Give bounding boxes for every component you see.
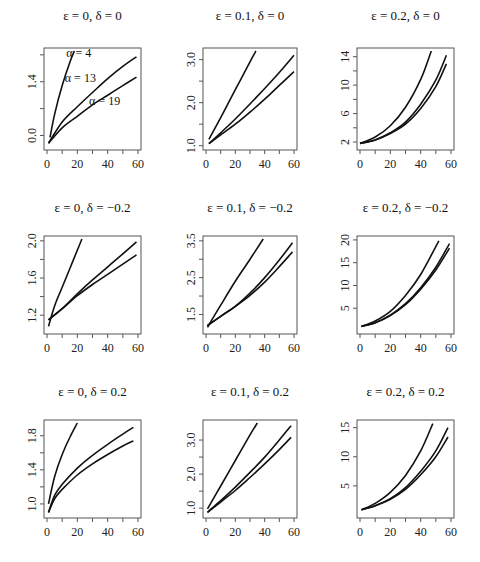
y-tick-label: 1.4 (25, 462, 39, 477)
x-tick-label: 40 (102, 157, 114, 171)
x-tick-label: 20 (229, 157, 241, 171)
panel-title: ε = 0.2, δ = 0.2 (366, 384, 444, 399)
x-tick-label: 0 (44, 525, 50, 539)
y-tick-label: 10 (338, 451, 352, 463)
figure-grid: ε = 0, δ = 002040600.01.4α = 4α = 13α = … (0, 0, 480, 562)
y-tick-label: 3.5 (184, 233, 198, 248)
curve-annotation: α = 13 (65, 71, 96, 85)
chart-panel-6: ε = 0.2, δ = −0.202040605101520 (338, 200, 457, 355)
series-line-3 (362, 437, 449, 510)
y-tick-label: 0.0 (25, 128, 39, 143)
x-tick-label: 20 (384, 525, 396, 539)
y-tick-label: 6 (338, 111, 352, 117)
series-line-3 (362, 248, 450, 326)
y-tick-label: 14 (338, 51, 352, 63)
x-tick-label: 0 (357, 525, 363, 539)
x-tick-label: 20 (229, 341, 241, 355)
y-tick-label: 5 (338, 483, 352, 489)
y-tick-label: 1.4 (25, 74, 39, 89)
y-tick-label: 15 (338, 422, 352, 434)
x-tick-label: 60 (132, 341, 144, 355)
panel-title: ε = 0.2, δ = −0.2 (363, 200, 449, 215)
x-tick-label: 0 (44, 157, 50, 171)
x-tick-label: 20 (384, 157, 396, 171)
y-tick-label: 2.0 (184, 95, 198, 110)
series-line-2 (49, 427, 134, 512)
x-tick-label: 20 (71, 341, 83, 355)
y-tick-label: 1.0 (184, 138, 198, 153)
series-line-1 (362, 241, 439, 327)
y-tick-label: 1.0 (25, 496, 39, 511)
x-tick-label: 60 (445, 525, 457, 539)
panel-title: ε = 0, δ = 0.2 (58, 384, 127, 399)
x-tick-label: 60 (288, 525, 300, 539)
series-line-3 (360, 64, 446, 144)
y-tick-label: 20 (338, 234, 352, 246)
panel-title: ε = 0, δ = −0.2 (55, 200, 131, 215)
x-tick-label: 0 (357, 341, 363, 355)
chart-panel-8: ε = 0.1, δ = 0.202040601.02.03.0 (184, 384, 300, 539)
chart-panel-3: ε = 0.2, δ = 00204060261014 (338, 8, 457, 171)
x-tick-label: 40 (259, 341, 271, 355)
x-tick-label: 60 (132, 157, 144, 171)
series-line-2 (208, 243, 293, 326)
y-tick-label: 10 (338, 279, 352, 291)
series-line-1 (362, 424, 433, 510)
panel-title: ε = 0.1, δ = 0.2 (211, 384, 289, 399)
series-line-2 (360, 55, 446, 143)
x-tick-label: 40 (415, 341, 427, 355)
chart-panel-7: ε = 0, δ = 0.202040601.01.41.8 (25, 384, 144, 539)
y-tick-label: 2.5 (184, 270, 198, 285)
panel-title: ε = 0.1, δ = 0 (216, 8, 285, 23)
y-tick-label: 3.0 (184, 433, 198, 448)
x-tick-label: 40 (415, 525, 427, 539)
y-tick-label: 5 (338, 305, 352, 311)
y-tick-label: 1.6 (25, 271, 39, 286)
series-line-1 (49, 423, 78, 504)
panel-title: ε = 0.1, δ = −0.2 (207, 200, 293, 215)
series-line-2 (208, 426, 292, 513)
chart-panel-4: ε = 0, δ = −0.202040601.21.62.0 (25, 200, 144, 355)
series-line-3 (208, 252, 293, 326)
x-tick-label: 40 (102, 525, 114, 539)
y-tick-label: 1.2 (25, 308, 39, 323)
y-tick-label: 2.0 (25, 233, 39, 248)
series-line-2 (209, 55, 294, 143)
chart-panel-5: ε = 0.1, δ = −0.202040601.52.53.5 (184, 200, 300, 355)
x-tick-label: 20 (384, 341, 396, 355)
curve-annotation: α = 19 (89, 94, 120, 108)
series-line-2 (362, 428, 449, 510)
plot-frame (44, 420, 141, 518)
series-line-1 (208, 239, 264, 327)
y-tick-label: 1.8 (25, 428, 39, 443)
chart-panel-9: ε = 0.2, δ = 0.2020406051015 (338, 384, 457, 539)
x-tick-label: 60 (288, 157, 300, 171)
chart-panel-2: ε = 0.1, δ = 002040601.02.03.0 (184, 8, 300, 171)
y-tick-label: 15 (338, 257, 352, 269)
x-tick-label: 60 (132, 525, 144, 539)
plot-frame (357, 48, 454, 150)
x-tick-label: 0 (203, 157, 209, 171)
x-tick-label: 60 (445, 341, 457, 355)
y-tick-label: 2.0 (184, 467, 198, 482)
x-tick-label: 40 (259, 525, 271, 539)
y-tick-label: 3.0 (184, 52, 198, 67)
curve-annotation: α = 4 (66, 46, 91, 60)
series-line-2 (362, 244, 450, 327)
y-tick-label: 10 (338, 79, 352, 91)
y-tick-label: 1.0 (184, 501, 198, 516)
chart-panel-1: ε = 0, δ = 002040600.01.4α = 4α = 13α = … (25, 8, 144, 171)
x-tick-label: 40 (259, 157, 271, 171)
panel-title: ε = 0.2, δ = 0 (371, 8, 440, 23)
x-tick-label: 20 (229, 525, 241, 539)
x-tick-label: 0 (44, 341, 50, 355)
y-tick-label: 2 (338, 139, 352, 145)
plot-frame (357, 236, 454, 334)
series-line-1 (50, 51, 74, 137)
series-line-1 (49, 239, 82, 326)
series-line-1 (208, 423, 258, 509)
x-tick-label: 40 (415, 157, 427, 171)
x-tick-label: 60 (445, 157, 457, 171)
x-tick-label: 0 (203, 525, 209, 539)
x-tick-label: 0 (203, 341, 209, 355)
